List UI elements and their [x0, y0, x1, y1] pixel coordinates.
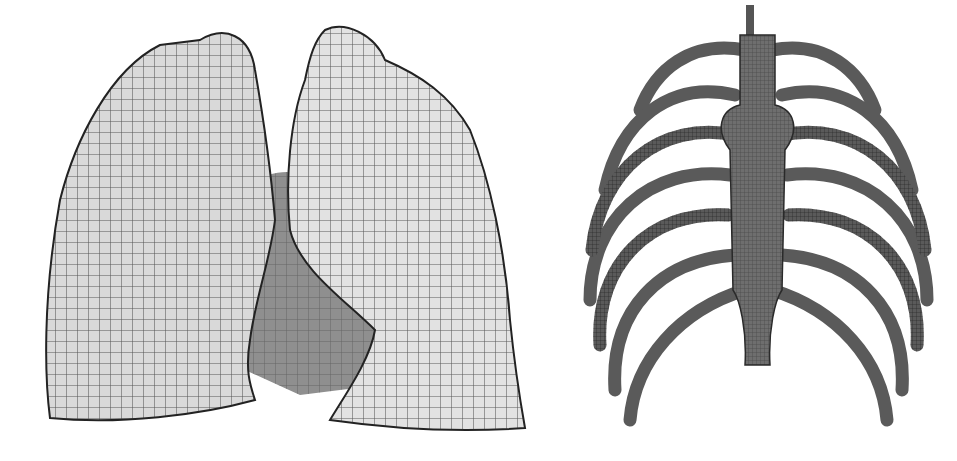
sternum [721, 5, 793, 365]
lung-mesh-figure [0, 0, 560, 461]
left-lung-mesh [46, 33, 275, 420]
rib-cage-mesh-figure [560, 0, 957, 461]
